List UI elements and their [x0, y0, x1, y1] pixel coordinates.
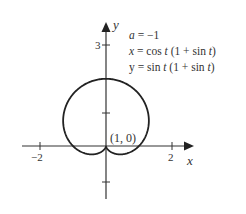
equation-a: a = −1 [129, 30, 159, 42]
tick-label-neg2: −2 [31, 152, 43, 163]
x-axis-arrow-icon [184, 142, 194, 151]
x-axis-label: x [187, 154, 193, 167]
y-axis-label: y [113, 18, 119, 31]
equation-x: x = cos t (1 + sin t) [129, 46, 216, 58]
equation-y: y = sin t (1 + sin t) [129, 62, 215, 74]
y-axis-arrow-icon [102, 22, 111, 32]
plot-area [0, 0, 246, 214]
point-annotation: (1, 0) [110, 132, 136, 144]
tick-label-3: 3 [95, 40, 101, 51]
tick-label-2: 2 [168, 152, 174, 163]
